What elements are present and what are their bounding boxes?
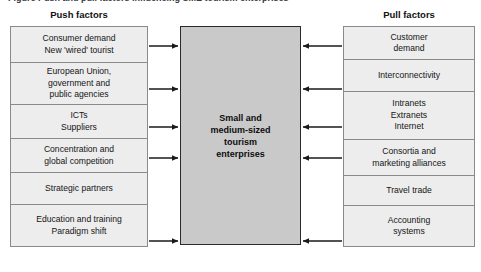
push-factor-label: European Union, government and public ag…	[47, 66, 112, 101]
push-arrow-group	[149, 46, 178, 241]
push-factor-label: Education and training Paradigm shift	[36, 214, 122, 237]
pull-factor-label: Accounting systems	[388, 215, 431, 238]
push-factor-box[interactable]: Consumer demand New 'wired' tourist	[11, 27, 147, 63]
pull-factors-column: Customer demand Interconnectivity Intran…	[343, 26, 475, 247]
push-factor-box[interactable]: Strategic partners	[11, 173, 147, 205]
push-factor-label: Concentration and global competition	[44, 144, 114, 167]
pull-arrow-group	[303, 46, 342, 241]
push-factor-box[interactable]: ICTs Suppliers	[11, 105, 147, 139]
pull-factor-label: Travel trade	[386, 185, 432, 197]
pull-factor-label: Interconnectivity	[378, 70, 440, 82]
push-factor-box[interactable]: Concentration and global competition	[11, 139, 147, 173]
push-factor-box[interactable]: European Union, government and public ag…	[11, 63, 147, 105]
pull-factor-box[interactable]: Consortia and marketing alliances	[344, 140, 474, 176]
pull-factor-label: Customer demand	[390, 32, 427, 55]
pull-factor-box[interactable]: Intranets Extranets Internet	[344, 92, 474, 140]
figure-caption: Figure Push and pull factors influencing…	[8, 0, 428, 4]
diagram-figure: Figure Push and pull factors influencing…	[0, 0, 481, 272]
pull-factor-box[interactable]: Customer demand	[344, 27, 474, 60]
pull-factor-box[interactable]: Travel trade	[344, 176, 474, 206]
push-factors-header: Push factors	[10, 9, 148, 21]
pull-factor-label: Consortia and marketing alliances	[372, 146, 446, 169]
pull-factors-header: Pull factors	[343, 9, 475, 21]
pull-factor-label: Intranets Extranets Internet	[391, 98, 427, 133]
pull-factor-box[interactable]: Interconnectivity	[344, 60, 474, 92]
push-factors-column: Consumer demand New 'wired' tourist Euro…	[10, 26, 148, 247]
central-enterprise-label: Small and medium-sized tourism enterpris…	[210, 112, 270, 160]
push-factor-label: ICTs Suppliers	[61, 110, 97, 133]
push-factor-box[interactable]: Education and training Paradigm shift	[11, 205, 147, 246]
push-factor-label: Consumer demand New 'wired' tourist	[42, 33, 115, 56]
pull-factor-box[interactable]: Accounting systems	[344, 206, 474, 246]
push-factor-label: Strategic partners	[45, 183, 113, 195]
central-enterprise-box[interactable]: Small and medium-sized tourism enterpris…	[180, 26, 301, 245]
